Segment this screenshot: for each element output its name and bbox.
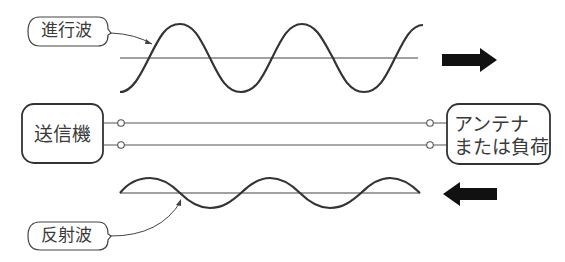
reflected-wave-label: 反射波 [41, 227, 92, 244]
transmitter-label: 送信機 [34, 123, 91, 145]
transmission-line [103, 120, 447, 149]
reflected-wave [120, 178, 420, 208]
load-label-line2: または負荷 [454, 136, 549, 158]
terminal-icon [427, 120, 434, 127]
terminal-icon [427, 142, 434, 149]
reflected-arrow-icon [443, 182, 497, 206]
load-label-line1: アンテナ [454, 113, 529, 135]
forward-arrow-icon [442, 48, 497, 72]
terminal-icon [118, 142, 125, 149]
reflected-wave-leader [111, 201, 181, 236]
forward-wave [120, 24, 423, 92]
forward-wave-label: 進行波 [41, 22, 92, 39]
terminal-icon [118, 120, 125, 127]
